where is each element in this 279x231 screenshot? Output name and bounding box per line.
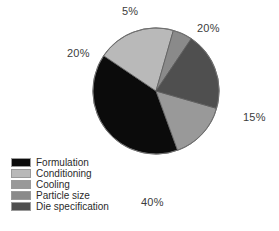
slice-label-cooling: 15% [243, 111, 266, 123]
legend-item-label: Particle size [36, 190, 90, 201]
chart-legend: FormulationConditioningCoolingParticle s… [11, 157, 129, 212]
legend-item-label: Cooling [36, 179, 70, 190]
pie-chart-figure: 5% 20% 15% 20% 40% FormulationConditioni… [0, 0, 279, 231]
legend-item-formulation[interactable]: Formulation [11, 157, 129, 168]
legend-item-label: Conditioning [36, 168, 92, 179]
slice-label-particle-size: 5% [122, 5, 138, 17]
slice-label-conditioning: 20% [67, 47, 90, 59]
legend-swatch-icon [11, 202, 31, 211]
legend-item-label: Die specification [36, 201, 109, 212]
slice-label-die-specification: 20% [197, 22, 220, 34]
pie-chart-graphic [92, 27, 220, 155]
legend-swatch-icon [11, 191, 31, 200]
legend-item-particle-size[interactable]: Particle size [11, 190, 129, 201]
legend-item-cooling[interactable]: Cooling [11, 179, 129, 190]
legend-swatch-icon [11, 158, 31, 167]
pie-svg [92, 27, 220, 155]
legend-swatch-icon [11, 169, 31, 178]
slice-label-formulation: 40% [141, 196, 164, 208]
legend-item-die-specification[interactable]: Die specification [11, 201, 129, 212]
legend-swatch-icon [11, 180, 31, 189]
legend-item-conditioning[interactable]: Conditioning [11, 168, 129, 179]
legend-item-label: Formulation [36, 157, 89, 168]
